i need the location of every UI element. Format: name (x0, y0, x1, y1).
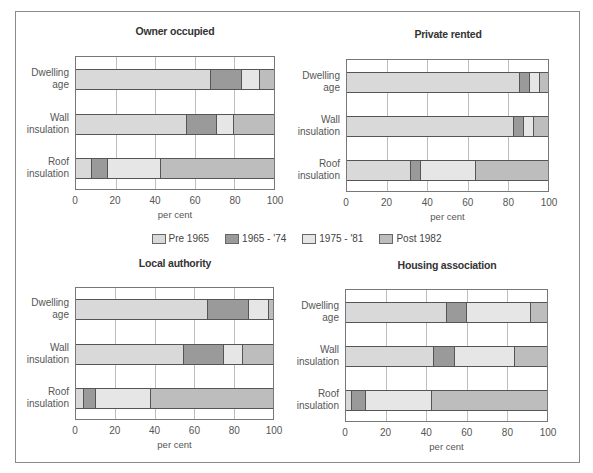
stacked-bar (76, 114, 274, 135)
row-label: Roofinsulation (279, 388, 339, 412)
panel-title: Housing association (398, 259, 497, 271)
x-tick-label: 40 (149, 425, 160, 436)
bar-segment (76, 70, 211, 89)
legend-item-pre-1965: Pre 1965 (152, 233, 210, 244)
bar-segment (455, 347, 515, 366)
x-axis-label: per cent (430, 211, 464, 222)
x-tick-label: 0 (72, 425, 78, 436)
bar-segment (224, 345, 244, 364)
bar-segment (96, 389, 151, 408)
bar-segment (476, 161, 548, 180)
legend-label: 1965 - '74 (242, 233, 286, 244)
bar-segment (514, 117, 524, 136)
row-label-line: Wall (280, 114, 340, 126)
x-tick-label: 40 (422, 197, 433, 208)
bar-segment (242, 70, 260, 89)
x-tick-label: 40 (149, 195, 160, 206)
legend-item-post-1982: Post 1982 (379, 233, 441, 244)
bar-segment (447, 303, 467, 322)
legend-swatch (225, 234, 239, 244)
row-label-line: insulation (9, 124, 69, 136)
stacked-bar (347, 160, 548, 181)
bar-segment (260, 70, 274, 89)
row-label-line: Wall (9, 112, 69, 124)
row-label-line: insulation (9, 398, 69, 410)
bar-segment (249, 300, 269, 319)
x-tick-label: 60 (189, 195, 200, 206)
legend-label: 1975 - '81 (319, 233, 363, 244)
bar-segment (531, 303, 547, 322)
stacked-bar (76, 344, 273, 365)
row-label: Roofinsulation (9, 156, 69, 180)
x-tick-label: 60 (461, 427, 472, 438)
row-label-line: insulation (9, 354, 69, 366)
row-label-line: age (280, 82, 340, 94)
panel-title: Local authority (139, 257, 211, 269)
stacked-bar (347, 116, 548, 137)
stacked-bar (76, 158, 274, 179)
bar-segment (243, 345, 273, 364)
stacked-bar (76, 388, 273, 409)
bar-segment (76, 115, 187, 134)
row-label-line: insulation (280, 126, 340, 138)
row-label: Wallinsulation (9, 112, 69, 136)
row-label: Wallinsulation (9, 342, 69, 366)
row-label-line: Dwelling (9, 297, 69, 309)
bar-segment (76, 345, 184, 364)
plot-area (345, 289, 548, 422)
bar-segment (421, 161, 475, 180)
bar-segment (352, 391, 366, 410)
x-tick-label: 20 (109, 425, 120, 436)
row-label-line: Dwelling (279, 300, 339, 312)
bar-segment (184, 345, 223, 364)
row-label-line: age (9, 309, 69, 321)
row-label-line: Roof (9, 156, 69, 168)
bar-segment (208, 300, 249, 319)
plot-area (75, 56, 275, 190)
row-label-line: insulation (9, 168, 69, 180)
x-tick-label: 60 (189, 425, 200, 436)
bar-segment (534, 117, 548, 136)
legend-swatch (152, 234, 166, 244)
bar-segment (540, 73, 548, 92)
bar-segment (76, 159, 92, 178)
x-tick-label: 80 (502, 427, 513, 438)
bar-segment (530, 73, 540, 92)
x-tick-label: 20 (109, 195, 120, 206)
stacked-bar (76, 299, 273, 320)
x-tick-label: 20 (380, 427, 391, 438)
row-label-line: Roof (9, 386, 69, 398)
bar-segment (515, 347, 547, 366)
bar-segment (347, 117, 514, 136)
bar-segment (217, 115, 235, 134)
bar-segment (347, 73, 520, 92)
row-label-line: Wall (9, 342, 69, 354)
x-tick-label: 40 (421, 427, 432, 438)
bar-segment (108, 159, 161, 178)
row-label: Roofinsulation (9, 386, 69, 410)
x-tick-label: 60 (462, 197, 473, 208)
stacked-bar (76, 69, 274, 90)
bar-segment (346, 347, 434, 366)
legend-item-1975-81: 1975 - '81 (302, 233, 363, 244)
panel-title: Private rented (414, 28, 481, 40)
row-label: Dwellingage (9, 67, 69, 91)
row-label-line: insulation (279, 356, 339, 368)
bar-segment (346, 303, 447, 322)
row-label-line: Wall (279, 344, 339, 356)
legend-label: Post 1982 (396, 233, 441, 244)
bar-segment (234, 115, 274, 134)
x-tick-label: 20 (381, 197, 392, 208)
row-label-line: Roof (280, 158, 340, 170)
plot-area (75, 287, 274, 420)
bar-segment (76, 389, 84, 408)
panel-title: Owner occupied (136, 25, 215, 37)
row-label-line: Dwelling (280, 70, 340, 82)
x-tick-label: 100 (267, 195, 284, 206)
row-label: Dwellingage (280, 70, 340, 94)
x-axis-label: per cent (158, 209, 192, 220)
legend-swatch (302, 234, 316, 244)
legend-label: Pre 1965 (169, 233, 210, 244)
plot-area (346, 59, 549, 192)
row-label-line: insulation (280, 170, 340, 182)
